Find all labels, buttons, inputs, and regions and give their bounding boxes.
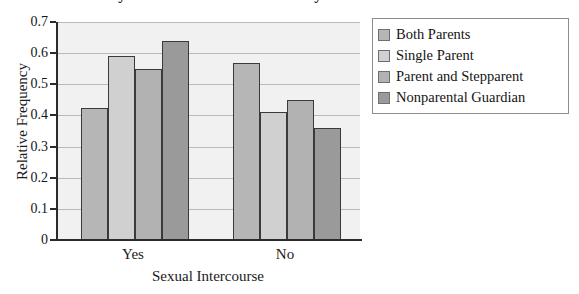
- legend: Both ParentsSingle ParentParent and Step…: [372, 18, 569, 114]
- bar: [108, 56, 135, 240]
- y-axis-tick-mark: [50, 208, 56, 210]
- y-axis-tick-mark: [50, 177, 56, 179]
- legend-swatch-icon: [378, 29, 390, 41]
- x-axis-line: [54, 239, 362, 241]
- legend-swatch-icon: [378, 92, 390, 104]
- y-axis-tick-mark: [50, 21, 56, 23]
- chart-title: Family Structure and Sexual Activity: [46, 0, 356, 4]
- legend-item-label: Nonparental Guardian: [396, 90, 525, 105]
- x-axis-tick-label: Yes: [83, 246, 183, 263]
- plot-area: [56, 22, 360, 240]
- legend-item[interactable]: Parent and Stepparent: [378, 66, 562, 87]
- y-axis-tick-mark: [50, 83, 56, 85]
- legend-item[interactable]: Nonparental Guardian: [378, 87, 562, 108]
- bar: [233, 63, 260, 241]
- legend-item[interactable]: Both Parents: [378, 24, 562, 45]
- legend-item-label: Both Parents: [396, 27, 471, 42]
- gridline: [58, 84, 360, 85]
- y-axis-tick-mark: [50, 146, 56, 148]
- bar: [81, 108, 108, 240]
- x-axis-tick-label: No: [235, 246, 335, 263]
- x-axis-label: Sexual Intercourse: [56, 268, 360, 285]
- y-axis-tick-mark: [50, 239, 56, 241]
- legend-item[interactable]: Single Parent: [378, 45, 562, 66]
- bar: [287, 100, 314, 240]
- bar: [135, 69, 162, 240]
- bar: [260, 112, 287, 240]
- legend-item-label: Parent and Stepparent: [396, 69, 523, 84]
- bar: [314, 128, 341, 240]
- legend-swatch-icon: [378, 50, 390, 62]
- y-axis-tick-mark: [50, 52, 56, 54]
- y-axis-label: Relative Frequency: [14, 7, 31, 237]
- legend-swatch-icon: [378, 71, 390, 83]
- y-axis-tick-mark: [50, 114, 56, 116]
- gridline: [58, 22, 360, 23]
- bar: [162, 41, 189, 240]
- gridline: [58, 53, 360, 54]
- legend-item-label: Single Parent: [396, 48, 474, 63]
